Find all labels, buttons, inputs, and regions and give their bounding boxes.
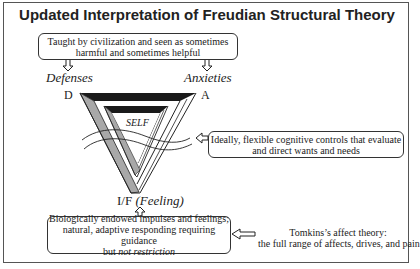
- cognitive-controls-line2: and direct wants and needs: [209, 145, 403, 156]
- tomkins-line1: Tomkins’s affect theory:: [258, 227, 418, 238]
- outer-dark-band: [80, 93, 196, 101]
- self-label: SELF: [126, 117, 149, 128]
- impulses-box: Biologically endowed impulses and feelin…: [47, 216, 231, 254]
- id-label: I/F: [117, 193, 135, 208]
- inner-dark-band: [104, 106, 168, 113]
- anxieties-label: Anxieties: [184, 70, 232, 86]
- arrow-left-from-tomkins-icon: [232, 229, 255, 239]
- id-feeling-label: I/F (Feeling): [117, 193, 184, 209]
- cognitive-controls-line1: Ideally, flexible cognitive controls tha…: [209, 134, 403, 145]
- feeling-label: (Feeling): [135, 193, 183, 208]
- vertex-a-label: A: [201, 88, 210, 103]
- vertex-d-label: D: [64, 88, 73, 103]
- defenses-label: Defenses: [46, 70, 93, 86]
- impulses-line1: Biologically endowed impulses and feelin…: [48, 213, 230, 224]
- arrow-left-from-cognitive-box-icon: [196, 133, 208, 143]
- not-restriction-text: not restriction: [118, 246, 175, 257]
- impulses-line3: but not restriction: [48, 246, 230, 257]
- cognitive-controls-box: Ideally, flexible cognitive controls tha…: [208, 131, 404, 158]
- tomkins-text: Tomkins’s affect theory: the full range …: [258, 227, 418, 249]
- impulses-line2: natural, adaptive responding requiring g…: [48, 224, 230, 246]
- tomkins-line2: the full range of affects, drives, and p…: [258, 238, 418, 249]
